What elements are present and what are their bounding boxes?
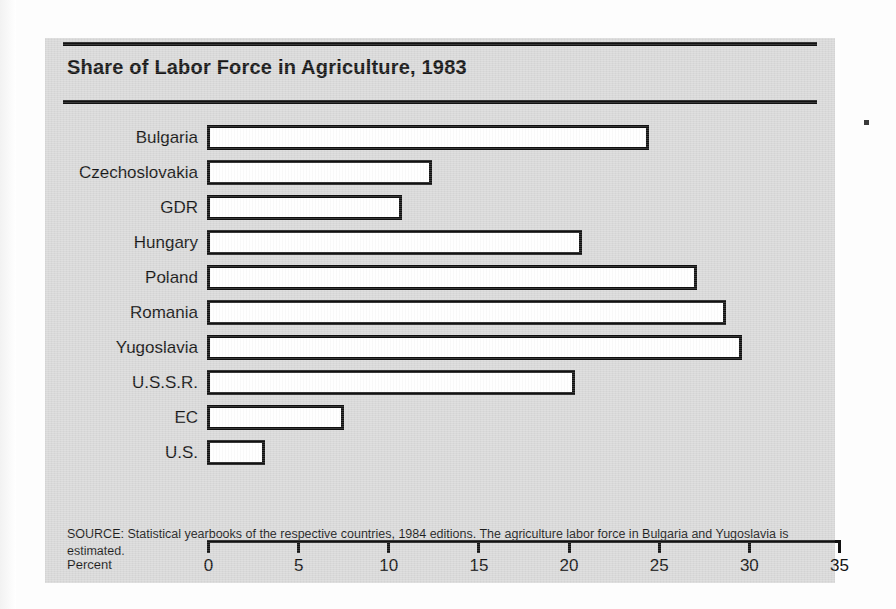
title-rule-top xyxy=(63,42,817,46)
bar xyxy=(207,300,726,325)
bar xyxy=(207,195,402,220)
bar-track xyxy=(207,225,835,260)
category-label: Bulgaria xyxy=(45,129,198,146)
bar-track xyxy=(207,400,835,435)
category-label: GDR xyxy=(45,199,198,216)
bar-track xyxy=(207,435,835,470)
bar-track xyxy=(207,190,835,225)
bar-row: Hungary xyxy=(45,225,835,260)
category-label: Hungary xyxy=(45,234,198,251)
bar-row: Bulgaria xyxy=(45,120,835,155)
x-tick-label: 35 xyxy=(830,556,849,576)
bar-row: GDR xyxy=(45,190,835,225)
bar xyxy=(207,230,582,255)
page-edge-shading xyxy=(0,0,16,609)
bar-row: U.S. xyxy=(45,435,835,470)
bar-track xyxy=(207,295,835,330)
bar-row: Czechoslovakia xyxy=(45,155,835,190)
bar xyxy=(207,440,265,465)
bar-row: EC xyxy=(45,400,835,435)
bar xyxy=(207,370,575,395)
bar-rows: BulgariaCzechoslovakiaGDRHungaryPolandRo… xyxy=(45,120,835,470)
bar xyxy=(207,405,344,430)
bar-row: U.S.S.R. xyxy=(45,365,835,400)
chart-title: Share of Labor Force in Agriculture, 198… xyxy=(67,56,467,79)
plot-area: BulgariaCzechoslovakiaGDRHungaryPolandRo… xyxy=(45,110,835,510)
category-label: Poland xyxy=(45,269,198,286)
figure-page: Share of Labor Force in Agriculture, 198… xyxy=(0,0,896,609)
bar xyxy=(207,125,649,150)
scan-speck xyxy=(864,120,869,125)
category-label: Yugoslavia xyxy=(45,339,198,356)
x-tick xyxy=(838,540,841,553)
category-label: Romania xyxy=(45,304,198,321)
source-note: SOURCE: Statistical yearbooks of the res… xyxy=(67,526,807,560)
bar-row: Poland xyxy=(45,260,835,295)
category-label: Czechoslovakia xyxy=(45,164,198,181)
bar-row: Romania xyxy=(45,295,835,330)
bar xyxy=(207,335,742,360)
chart-panel: Share of Labor Force in Agriculture, 198… xyxy=(45,38,835,583)
bar-track xyxy=(207,260,835,295)
category-label: U.S.S.R. xyxy=(45,374,198,391)
bar-row: Yugoslavia xyxy=(45,330,835,365)
bar-track xyxy=(207,155,835,190)
bar-track xyxy=(207,365,835,400)
bar xyxy=(207,160,432,185)
category-label: EC xyxy=(45,409,198,426)
bar xyxy=(207,265,697,290)
title-rule-bottom xyxy=(63,100,817,104)
bar-track xyxy=(207,330,835,365)
bar-track xyxy=(207,120,835,155)
category-label: U.S. xyxy=(45,444,198,461)
